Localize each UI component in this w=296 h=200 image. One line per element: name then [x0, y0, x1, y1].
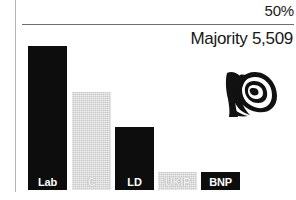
bar-ukip-label: UKIP	[158, 176, 197, 188]
bar-ld-label: LD	[115, 176, 154, 188]
bar-bnp: BNP	[201, 172, 240, 190]
election-bar-chart: 50% Majority 5,509 Lab C LD UKIP BNP	[0, 0, 296, 200]
bar-ukip: UKIP	[158, 172, 197, 190]
bar-c-label: C	[72, 176, 111, 188]
bar-c: C	[72, 92, 111, 190]
bar-lab: Lab	[28, 46, 67, 190]
bar-bnp-label: BNP	[201, 176, 240, 188]
bar-lab-label: Lab	[28, 176, 67, 188]
labour-rose-icon	[222, 69, 278, 119]
bar-lab-fill	[28, 46, 67, 190]
bar-ld: LD	[115, 127, 154, 190]
